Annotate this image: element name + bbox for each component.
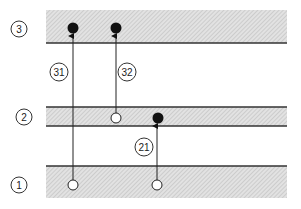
transition-31-label: 31 — [53, 67, 65, 78]
level-label-1: 1 — [11, 177, 27, 193]
level-label-3-text: 3 — [16, 24, 22, 35]
open-circle-icon — [111, 113, 121, 123]
transition-diagram: 3 2 1 31 32 21 — [0, 0, 301, 209]
open-circle-icon — [152, 180, 162, 190]
transition-32-label: 32 — [121, 67, 133, 78]
level-label-2: 2 — [16, 109, 32, 125]
level-2-band — [46, 107, 287, 126]
level-1-band — [46, 166, 287, 198]
level-label-1-text: 1 — [16, 180, 22, 191]
filled-dot-icon — [68, 23, 79, 34]
level-3-band — [46, 10, 287, 43]
filled-dot-icon — [153, 113, 164, 124]
level-label-3: 3 — [11, 21, 27, 37]
level-label-2-text: 2 — [21, 112, 27, 123]
transition-32: 32 — [116, 36, 136, 113]
filled-dot-icon — [111, 23, 122, 34]
open-circle-icon — [68, 180, 78, 190]
transition-21-label: 21 — [138, 142, 150, 153]
